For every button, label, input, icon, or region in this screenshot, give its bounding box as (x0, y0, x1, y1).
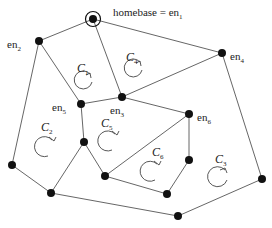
edge-c2c5-bl (51, 142, 84, 193)
edge-en5-en3 (81, 97, 122, 104)
label-c3: C3 (215, 152, 227, 168)
node-c6b (163, 190, 171, 198)
node-en4 (218, 49, 226, 57)
graph-diagram: homebase = en1 en2 en4 en3 en5 en6 C1 C4… (0, 0, 272, 228)
node-en6 (185, 110, 193, 118)
cycle-c6-arrow-icon (140, 161, 157, 181)
cycle-c2-arrow-icon (35, 137, 52, 157)
edge-en5-c2c5 (81, 104, 84, 142)
edge-en3-en6 (122, 97, 189, 114)
node-en2 (35, 37, 43, 45)
label-c2: C2 (41, 120, 53, 136)
edge-mid-c6b (105, 176, 167, 194)
edge-e6b-c6b (167, 160, 189, 194)
cycle-c2-arrowhead-icon (49, 137, 56, 141)
edge-bot-right (178, 179, 262, 216)
cycle-c5-arrow-icon (98, 131, 115, 151)
node-en1 (89, 15, 97, 23)
label-en6: en6 (197, 111, 211, 126)
homebase-label: homebase = en1 (113, 6, 183, 21)
node-left (8, 161, 16, 169)
node-en3 (118, 93, 126, 101)
edge-en1-en4 (93, 19, 222, 53)
labels: homebase = en1 en2 en4 en3 en5 en6 C1 C4… (7, 6, 244, 168)
label-c1: C1 (77, 61, 89, 77)
cycle-c3-arrow-icon (208, 167, 227, 187)
label-c6: C6 (152, 145, 164, 161)
label-en2: en2 (7, 38, 21, 53)
edge-en2-en5 (39, 41, 81, 104)
cycle-c5-arrowhead-icon (112, 131, 119, 135)
edge-en1-en2 (39, 19, 93, 41)
edge-left-bl (12, 165, 51, 193)
cycle-c3-arrowhead-icon (220, 168, 227, 173)
edge-en4-right (222, 53, 262, 179)
node-bot (174, 212, 182, 220)
label-en3: en3 (110, 104, 124, 119)
label-c5: C5 (101, 116, 113, 132)
label-c4: C4 (126, 50, 138, 66)
node-e6b (185, 156, 193, 164)
label-en4: en4 (230, 50, 244, 65)
edge-mid-en6 (105, 114, 189, 176)
edge-bl-bot (51, 193, 178, 216)
node-bl (47, 189, 55, 197)
edges (12, 19, 262, 216)
edge-en2-left (12, 41, 39, 165)
edge-en1-en3 (93, 19, 122, 97)
nodes (8, 12, 266, 221)
label-en5: en5 (52, 101, 66, 116)
node-c2c5 (80, 138, 88, 146)
node-right (258, 175, 266, 183)
node-en5 (77, 100, 85, 108)
edge-c2c5-mid (84, 142, 105, 176)
node-mid (101, 172, 109, 180)
